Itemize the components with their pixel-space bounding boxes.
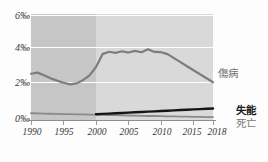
x-tick-label-2010: 2010 — [153, 127, 172, 137]
x-tick-label-1990: 1990 — [23, 127, 42, 137]
plot-area — [31, 14, 213, 120]
x-tick-2000 — [96, 121, 97, 125]
x-tick-1995 — [63, 121, 64, 125]
chart-figure: 6‰ 4‰ 2‰ 0‰ 1990 1995 2000 2005 2010 201… — [0, 0, 268, 162]
x-tick-label-2005: 2005 — [120, 127, 139, 137]
y-tick-label-2: 2‰ — [4, 78, 30, 88]
legend-label-shitsunou: 失能 — [236, 105, 256, 116]
x-tick-2010 — [161, 121, 162, 125]
x-tick-label-2018: 2018 — [208, 127, 227, 137]
x-tick-2005 — [128, 121, 129, 125]
line-shitsunou — [96, 108, 213, 114]
x-tick-label-1995: 1995 — [55, 127, 74, 137]
x-tick-label-2000: 2000 — [88, 127, 107, 137]
line-shoubyou — [31, 49, 213, 84]
x-tick-1990 — [31, 121, 32, 125]
y-tick-label-4: 4‰ — [4, 43, 30, 53]
x-tick-2018 — [213, 121, 214, 125]
series-lines — [31, 14, 213, 120]
x-tick-2015 — [193, 121, 194, 125]
legend-label-shoubyou: 傷病 — [218, 68, 238, 79]
y-tick-label-0: 0‰ — [4, 114, 30, 124]
x-tick-label-2015: 2015 — [183, 127, 202, 137]
legend-label-shibou: 死亡 — [236, 118, 256, 129]
y-tick-label-6: 6‰ — [4, 11, 30, 21]
x-axis-line — [28, 120, 216, 121]
